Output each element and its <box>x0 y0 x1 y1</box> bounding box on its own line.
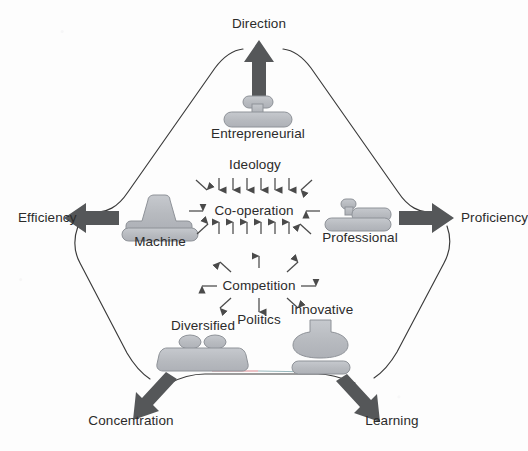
cooperation-converging-arrows-lower <box>219 222 289 234</box>
outcome-label-proficiency: Proficiency <box>461 211 528 225</box>
form-label-machine: Machine <box>134 235 186 249</box>
force-label-ideology: Ideology <box>229 158 281 172</box>
shape-entrepreneurial <box>224 96 292 127</box>
form-label-professional: Professional <box>322 231 398 245</box>
form-label-entrepreneurial: Entrepreneurial <box>211 127 305 141</box>
shape-diversified <box>157 335 248 371</box>
arrow-direction <box>244 40 274 96</box>
shape-professional <box>325 199 391 231</box>
ideology-converging-arrows <box>219 178 289 190</box>
outcome-label-concentration: Concentration <box>88 414 173 428</box>
outcome-label-learning: Learning <box>365 414 418 428</box>
cooperation-diagonal-arrows-lower <box>197 224 311 234</box>
outcome-label-direction: Direction <box>232 17 286 31</box>
outcome-label-efficiency: Efficiency <box>18 211 77 225</box>
force-label-politics: Politics <box>237 313 281 327</box>
form-label-diversified: Diversified <box>171 319 235 333</box>
form-label-innovative: Innovative <box>291 303 354 317</box>
force-label-cooperation: Co-operation <box>214 204 293 218</box>
cooperation-diagonal-arrows-upper <box>196 180 312 190</box>
arrow-proficiency <box>399 203 454 233</box>
force-label-competition: Competition <box>222 279 295 293</box>
shape-innovative <box>292 320 350 374</box>
